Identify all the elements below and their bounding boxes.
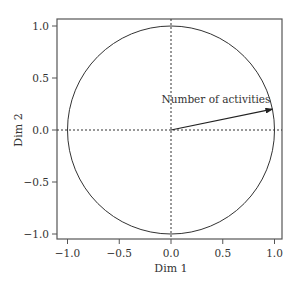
x-tick-label: 0.0 [163,247,180,259]
vector-label: Number of activities [161,93,270,105]
y-tick-label: 1.0 [32,20,49,32]
y-axis: −1.0−0.50.00.51.0 [24,20,58,240]
vector-layer: Number of activities [161,93,272,130]
y-tick-label: 0.5 [32,72,49,84]
vector-arrow [171,109,272,130]
y-tick-label: −1.0 [24,228,50,240]
plot-frame [57,19,282,239]
x-tick-label: −0.5 [107,247,133,259]
x-tick-label: 0.5 [214,247,231,259]
x-tick-label: −1.0 [55,247,81,259]
y-tick-label: −0.5 [24,176,50,188]
y-tick-label: 0.0 [32,124,49,136]
y-axis-label: Dim 2 [12,113,25,146]
correlation-circle-chart: Number of activities −1.0−0.50.00.51.0 −… [0,0,296,284]
x-tick-label: 1.0 [266,247,283,259]
x-axis-label: Dim 1 [154,262,187,275]
reference-lines [57,19,282,239]
x-axis: −1.0−0.50.00.51.0 [55,239,283,259]
